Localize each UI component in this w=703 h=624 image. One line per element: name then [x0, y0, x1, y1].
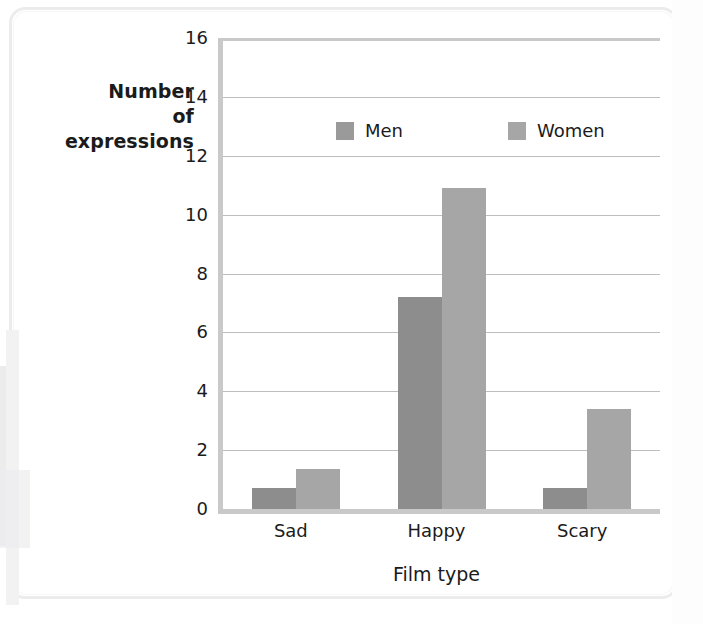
- x-axis-category-label: Happy: [367, 520, 507, 541]
- bar-happy-men: [398, 297, 442, 509]
- y-axis-tick-label: 6: [164, 323, 208, 341]
- bar-happy-women: [442, 188, 486, 509]
- x-axis-category-label: Sad: [221, 520, 361, 541]
- bar-scary-men: [543, 488, 587, 509]
- gridline: [223, 97, 660, 98]
- y-axis-tick-label: 16: [164, 29, 208, 47]
- y-axis-tick-label: 12: [164, 147, 208, 165]
- bar-scary-women: [587, 409, 631, 509]
- y-axis-tick-label: 10: [164, 206, 208, 224]
- y-axis-tick-labels: 1614121086420: [164, 0, 208, 624]
- legend-label-women: Women: [537, 122, 605, 140]
- x-axis-title: Film type: [218, 563, 655, 585]
- y-axis-tick-label: 8: [164, 265, 208, 283]
- gridline: [223, 156, 660, 157]
- legend-entry-women: Women: [508, 122, 605, 140]
- legend-swatch-women-icon: [508, 122, 526, 140]
- x-axis-category-label: Scary: [512, 520, 652, 541]
- legend-entry-men: Men: [336, 122, 403, 140]
- legend-swatch-men-icon: [336, 122, 354, 140]
- bar-chart: Number of expressions 1614121086420 Men …: [0, 0, 703, 624]
- y-axis-tick-label: 0: [164, 500, 208, 518]
- bar-sad-men: [252, 488, 296, 509]
- y-axis-tick-label: 14: [164, 88, 208, 106]
- bar-sad-women: [296, 469, 340, 509]
- y-axis-tick-label: 4: [164, 382, 208, 400]
- legend-label-men: Men: [365, 122, 403, 140]
- gridline: [223, 38, 660, 41]
- plot-area: [218, 38, 660, 514]
- y-axis-tick-label: 2: [164, 441, 208, 459]
